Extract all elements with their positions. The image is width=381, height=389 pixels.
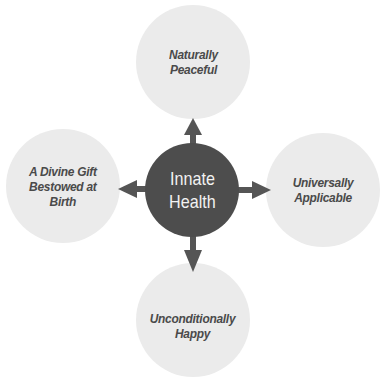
node-right-line2: Applicable — [293, 190, 354, 205]
node-left-line1: A Divine Gift — [29, 164, 97, 179]
center-label-line1: Innate — [169, 167, 216, 190]
node-right-label: Universally Applicable — [270, 170, 376, 210]
node-bottom-label: Unconditionally Happy — [133, 306, 253, 346]
node-top-line2: Peaceful — [169, 62, 218, 77]
center-label: Innate Health — [145, 160, 239, 220]
node-top-label: Naturally Peaceful — [143, 40, 243, 84]
innate-health-diagram: Innate Health Naturally Peaceful A Divin… — [0, 0, 381, 389]
node-left-line3: Birth — [29, 194, 97, 209]
node-left-label: A Divine Gift Bestowed at Birth — [8, 158, 118, 214]
node-top-line1: Naturally — [169, 47, 218, 62]
node-bottom-line2: Happy — [150, 326, 236, 341]
node-left-line2: Bestowed at — [29, 179, 97, 194]
center-label-line2: Health — [169, 190, 216, 213]
arrow-up-icon — [184, 118, 202, 147]
node-bottom-line1: Unconditionally — [150, 311, 236, 326]
node-right-line1: Universally — [293, 175, 354, 190]
